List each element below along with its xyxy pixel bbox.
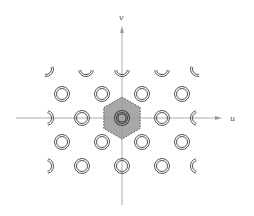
lattice-point — [55, 135, 70, 150]
ring — [137, 137, 148, 148]
lattice-point — [47, 159, 53, 173]
ring — [137, 89, 148, 100]
ring — [157, 70, 168, 75]
ring — [45, 67, 51, 74]
ring — [177, 137, 188, 148]
lattice-point — [45, 66, 54, 76]
lattice-point — [95, 87, 110, 102]
y-axis-label: v — [119, 13, 124, 22]
lattice-point — [155, 70, 170, 77]
ring — [47, 161, 51, 172]
lattice-point — [55, 87, 70, 102]
lattice-point — [155, 159, 170, 174]
ring — [81, 70, 92, 75]
ring — [177, 89, 188, 100]
lattice-point — [95, 135, 110, 150]
ring — [57, 137, 68, 148]
y-axis-arrow-icon — [120, 26, 124, 33]
lattice-point — [175, 87, 190, 102]
ring — [193, 161, 197, 172]
ring — [97, 137, 108, 148]
lattice-diagram: u v — [0, 0, 254, 216]
lattice-point — [175, 135, 190, 150]
x-axis-arrow-icon — [215, 116, 222, 120]
ring — [45, 66, 54, 76]
lattice-point — [190, 66, 199, 76]
ring — [157, 161, 168, 172]
ring — [57, 89, 68, 100]
ring — [77, 161, 88, 172]
lattice-point — [135, 87, 150, 102]
lattice-point — [79, 70, 94, 77]
ring — [190, 66, 199, 76]
ring — [97, 89, 108, 100]
x-axis-label: u — [230, 114, 235, 123]
ring — [192, 67, 198, 74]
lattice-point — [191, 159, 197, 173]
lattice-point — [75, 159, 90, 174]
lattice-point — [135, 135, 150, 150]
